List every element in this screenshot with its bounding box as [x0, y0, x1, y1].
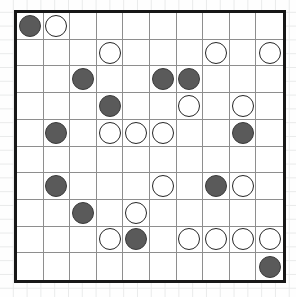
- board-cell-r9c9[interactable]: [230, 227, 257, 254]
- board-cell-r8c9[interactable]: [230, 200, 257, 227]
- board-cell-r5c10[interactable]: [256, 120, 283, 147]
- board-cell-r7c8[interactable]: [203, 173, 230, 200]
- board-cell-r5c4[interactable]: [97, 120, 124, 147]
- board-cell-r2c10[interactable]: [256, 40, 283, 67]
- board-cell-r5c1[interactable]: [17, 120, 44, 147]
- board-cell-r9c2[interactable]: [44, 227, 71, 254]
- board-cell-r1c1[interactable]: [17, 13, 44, 40]
- board-cell-r10c6[interactable]: [150, 253, 177, 280]
- board-cell-r10c8[interactable]: [203, 253, 230, 280]
- board-cell-r7c4[interactable]: [97, 173, 124, 200]
- board-cell-r2c3[interactable]: [70, 40, 97, 67]
- board-cell-r4c2[interactable]: [44, 93, 71, 120]
- board-cell-r3c4[interactable]: [97, 66, 124, 93]
- board-cell-r4c8[interactable]: [203, 93, 230, 120]
- board-cell-r5c9[interactable]: [230, 120, 257, 147]
- board-cell-r6c6[interactable]: [150, 147, 177, 174]
- board-cell-r3c9[interactable]: [230, 66, 257, 93]
- board-cell-r1c10[interactable]: [256, 13, 283, 40]
- board-cell-r6c2[interactable]: [44, 147, 71, 174]
- board-cell-r6c4[interactable]: [97, 147, 124, 174]
- board-cell-r8c3[interactable]: [70, 200, 97, 227]
- board-cell-r3c8[interactable]: [203, 66, 230, 93]
- board-cell-r7c1[interactable]: [17, 173, 44, 200]
- board-cell-r4c9[interactable]: [230, 93, 257, 120]
- board-cell-r8c10[interactable]: [256, 200, 283, 227]
- board-cell-r8c1[interactable]: [17, 200, 44, 227]
- board-cell-r7c6[interactable]: [150, 173, 177, 200]
- board-cell-r7c5[interactable]: [123, 173, 150, 200]
- board-cell-r6c10[interactable]: [256, 147, 283, 174]
- board-cell-r8c5[interactable]: [123, 200, 150, 227]
- board-cell-r5c5[interactable]: [123, 120, 150, 147]
- board-cell-r9c7[interactable]: [177, 227, 204, 254]
- board-cell-r6c9[interactable]: [230, 147, 257, 174]
- board-cell-r2c4[interactable]: [97, 40, 124, 67]
- board-cell-r7c3[interactable]: [70, 173, 97, 200]
- board-cell-r7c9[interactable]: [230, 173, 257, 200]
- board-cell-r4c1[interactable]: [17, 93, 44, 120]
- board-cell-r1c5[interactable]: [123, 13, 150, 40]
- board-cell-r5c7[interactable]: [177, 120, 204, 147]
- board-cell-r3c10[interactable]: [256, 66, 283, 93]
- board-cell-r8c4[interactable]: [97, 200, 124, 227]
- board-cell-r6c3[interactable]: [70, 147, 97, 174]
- board-cell-r6c1[interactable]: [17, 147, 44, 174]
- board-cell-r8c8[interactable]: [203, 200, 230, 227]
- board-cell-r6c5[interactable]: [123, 147, 150, 174]
- board-cell-r1c2[interactable]: [44, 13, 71, 40]
- board-cell-r6c7[interactable]: [177, 147, 204, 174]
- board-cell-r9c1[interactable]: [17, 227, 44, 254]
- game-board[interactable]: [14, 10, 286, 283]
- board-cell-r1c6[interactable]: [150, 13, 177, 40]
- board-cell-r10c2[interactable]: [44, 253, 71, 280]
- board-cell-r10c1[interactable]: [17, 253, 44, 280]
- board-cell-r10c9[interactable]: [230, 253, 257, 280]
- board-cell-r3c1[interactable]: [17, 66, 44, 93]
- board-cell-r2c5[interactable]: [123, 40, 150, 67]
- board-cell-r2c9[interactable]: [230, 40, 257, 67]
- board-cell-r4c7[interactable]: [177, 93, 204, 120]
- board-cell-r3c3[interactable]: [70, 66, 97, 93]
- board-cell-r3c7[interactable]: [177, 66, 204, 93]
- board-cell-r10c4[interactable]: [97, 253, 124, 280]
- board-cell-r9c3[interactable]: [70, 227, 97, 254]
- board-cell-r1c9[interactable]: [230, 13, 257, 40]
- board-cell-r8c7[interactable]: [177, 200, 204, 227]
- board-cell-r1c3[interactable]: [70, 13, 97, 40]
- board-cell-r9c4[interactable]: [97, 227, 124, 254]
- board-cell-r5c2[interactable]: [44, 120, 71, 147]
- board-cell-r4c3[interactable]: [70, 93, 97, 120]
- board-cell-r2c7[interactable]: [177, 40, 204, 67]
- board-cell-r4c6[interactable]: [150, 93, 177, 120]
- board-cell-r5c3[interactable]: [70, 120, 97, 147]
- board-cell-r5c6[interactable]: [150, 120, 177, 147]
- board-cell-r1c7[interactable]: [177, 13, 204, 40]
- board-cell-r2c1[interactable]: [17, 40, 44, 67]
- board-cell-r6c8[interactable]: [203, 147, 230, 174]
- board-cell-r9c8[interactable]: [203, 227, 230, 254]
- board-cell-r9c6[interactable]: [150, 227, 177, 254]
- board-cell-r10c7[interactable]: [177, 253, 204, 280]
- board-cell-r2c6[interactable]: [150, 40, 177, 67]
- board-cell-r9c10[interactable]: [256, 227, 283, 254]
- board-cell-r1c8[interactable]: [203, 13, 230, 40]
- board-cell-r9c5[interactable]: [123, 227, 150, 254]
- board-cell-r4c5[interactable]: [123, 93, 150, 120]
- board-cell-r7c2[interactable]: [44, 173, 71, 200]
- board-cell-r5c8[interactable]: [203, 120, 230, 147]
- board-cell-r3c6[interactable]: [150, 66, 177, 93]
- board-cell-r7c7[interactable]: [177, 173, 204, 200]
- board-cell-r2c8[interactable]: [203, 40, 230, 67]
- board-cell-r8c2[interactable]: [44, 200, 71, 227]
- board-cell-r10c5[interactable]: [123, 253, 150, 280]
- board-cell-r10c3[interactable]: [70, 253, 97, 280]
- board-cell-r1c4[interactable]: [97, 13, 124, 40]
- board-cell-r2c2[interactable]: [44, 40, 71, 67]
- board-cell-r10c10[interactable]: [256, 253, 283, 280]
- board-cell-r7c10[interactable]: [256, 173, 283, 200]
- board-cell-r4c4[interactable]: [97, 93, 124, 120]
- board-cell-r4c10[interactable]: [256, 93, 283, 120]
- board-cell-r8c6[interactable]: [150, 200, 177, 227]
- board-cell-r3c5[interactable]: [123, 66, 150, 93]
